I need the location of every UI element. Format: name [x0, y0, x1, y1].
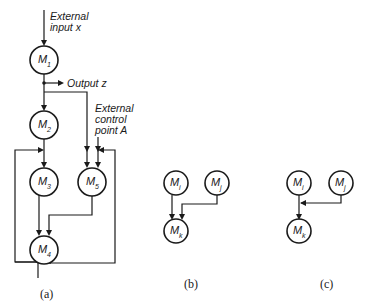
- node-mi: M i: [287, 171, 311, 195]
- node-mk: M k: [287, 219, 311, 243]
- svg-text:k: k: [179, 232, 183, 239]
- output-label: Output z: [67, 77, 107, 89]
- arrowhead-icon: [41, 162, 47, 168]
- panel-b: M i M j M k (b): [164, 171, 229, 291]
- node-mj: M j: [205, 171, 229, 195]
- caption-a: (a): [40, 287, 53, 301]
- node-m1: M 1: [30, 46, 58, 74]
- svg-text:k: k: [302, 232, 306, 239]
- arrowhead-icon: [95, 162, 101, 168]
- node-mj: M j: [329, 171, 353, 195]
- node-m3: M 3: [30, 168, 58, 196]
- svg-text:3: 3: [47, 183, 51, 190]
- mj-to-junction-line: [301, 195, 341, 203]
- module-connection-diagram: External input x M 1 Output z External c…: [0, 0, 367, 301]
- caption-c: (c): [320, 277, 333, 291]
- svg-text:j: j: [219, 184, 222, 192]
- control-label-line3: point A: [94, 124, 127, 136]
- panel-c: M i M j M k (c): [287, 171, 353, 291]
- svg-text:2: 2: [46, 126, 51, 133]
- mj-to-mk-line: [182, 195, 217, 218]
- svg-text:5: 5: [95, 183, 99, 190]
- arrowhead-icon: [84, 146, 90, 152]
- arrowhead-icon: [41, 105, 47, 111]
- panel-a: External input x M 1 Output z External c…: [15, 10, 134, 301]
- feedback-loop-right: [50, 150, 115, 264]
- input-label-line2: input x: [50, 21, 82, 33]
- svg-text:1: 1: [47, 61, 51, 68]
- arrowhead-icon: [300, 200, 306, 206]
- arrowhead-icon: [84, 162, 90, 168]
- m5-to-m4-line: [49, 196, 92, 234]
- arrowhead-icon: [58, 80, 64, 86]
- node-m2: M 2: [30, 111, 58, 139]
- node-m4: M 4: [30, 236, 58, 264]
- arrowhead-icon: [36, 230, 42, 236]
- node-mk: M k: [164, 219, 188, 243]
- svg-text:j: j: [343, 184, 346, 192]
- arrowhead-icon: [46, 230, 52, 236]
- svg-text:4: 4: [47, 251, 51, 258]
- caption-b: (b): [184, 277, 198, 291]
- node-mi: M i: [164, 171, 188, 195]
- arrowhead-icon: [38, 147, 44, 153]
- arrowhead-icon: [41, 40, 47, 46]
- node-m5: M 5: [78, 168, 106, 196]
